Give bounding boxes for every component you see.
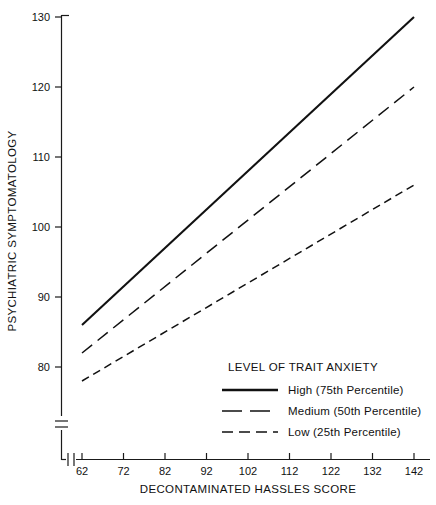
legend-label-high: High (75th Percentile) xyxy=(288,384,404,396)
y-ticks xyxy=(55,17,62,367)
legend: LEVEL OF TRAIT ANXIETY High (75th Percen… xyxy=(222,361,421,438)
series-group xyxy=(82,17,414,381)
y-tick-label-90: 90 xyxy=(38,291,50,303)
series-line-medium xyxy=(82,87,414,353)
y-axis-title: PSYCHIATRIC SYMPTOMATOLOGY xyxy=(6,130,18,331)
series-line-low xyxy=(82,185,414,381)
legend-label-low: Low (25th Percentile) xyxy=(288,426,401,438)
x-ticks xyxy=(82,453,414,460)
legend-title: LEVEL OF TRAIT ANXIETY xyxy=(228,361,378,373)
legend-entry-high: High (75th Percentile) xyxy=(222,384,404,396)
chart-svg: 130 120 110 100 90 80 PSYCHIATRIC SYMPTO… xyxy=(0,0,436,505)
x-tick-label-82: 82 xyxy=(159,465,171,477)
x-tick-labels: 62 72 82 92 102 112 122 132 142 xyxy=(76,465,423,477)
legend-entry-medium: Medium (50th Percentile) xyxy=(222,405,421,417)
y-axis xyxy=(55,15,69,460)
y-tick-label-80: 80 xyxy=(38,361,50,373)
y-tick-label-130: 130 xyxy=(32,11,50,23)
x-tick-label-92: 92 xyxy=(200,465,212,477)
x-tick-label-112: 112 xyxy=(281,465,299,477)
x-tick-label-142: 142 xyxy=(405,465,423,477)
legend-entry-low: Low (25th Percentile) xyxy=(222,426,401,438)
x-tick-label-72: 72 xyxy=(117,465,129,477)
y-tick-label-120: 120 xyxy=(32,81,50,93)
y-tick-label-110: 110 xyxy=(32,151,50,163)
y-tick-label-100: 100 xyxy=(32,221,50,233)
x-axis-title: DECONTAMINATED HASSLES SCORE xyxy=(140,483,356,495)
y-tick-labels: 130 120 110 100 90 80 xyxy=(32,11,50,373)
chart-figure: 130 120 110 100 90 80 PSYCHIATRIC SYMPTO… xyxy=(0,0,436,505)
x-tick-label-102: 102 xyxy=(239,465,257,477)
series-line-high xyxy=(82,17,414,325)
legend-label-medium: Medium (50th Percentile) xyxy=(288,405,421,417)
x-tick-label-122: 122 xyxy=(322,465,340,477)
x-tick-label-62: 62 xyxy=(76,465,88,477)
x-tick-label-132: 132 xyxy=(363,465,381,477)
